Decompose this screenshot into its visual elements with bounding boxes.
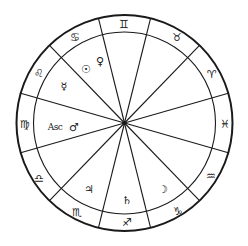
- sign-taurus-icon: ♉︎: [172, 32, 182, 43]
- house-cusp-line: [125, 123, 229, 153]
- sign-libra-icon: ♎︎: [34, 173, 44, 184]
- planet-mercury-icon: ☿︎: [61, 81, 68, 92]
- horoscope-wheel: [0, 0, 248, 246]
- sign-pisces-icon: ♓︎: [220, 119, 230, 130]
- sign-sagittarius-icon: ♐︎: [122, 217, 132, 228]
- house-cusp-line: [21, 93, 125, 123]
- planet-moon-icon: ☽︎: [158, 184, 168, 195]
- house-cusp-line: [125, 93, 229, 123]
- planet-jupiter-icon: ♃︎: [84, 184, 94, 195]
- sign-capricorn-icon: ♑︎: [173, 206, 183, 217]
- sign-aries-icon: ♈︎: [207, 69, 217, 80]
- house-cusp-line: [98, 18, 124, 123]
- sign-aquarius-icon: ♒︎: [206, 171, 216, 182]
- center-dot: [123, 121, 127, 125]
- house-cusp-line: [125, 18, 151, 123]
- house-cusp-line: [125, 45, 200, 123]
- sign-virgo-icon: ♍︎: [20, 119, 30, 130]
- sign-leo-icon: ♌︎: [34, 68, 44, 79]
- sign-scorpio-icon: ♏︎: [72, 207, 82, 218]
- house-cusp-line: [98, 123, 124, 228]
- planet-venus-icon: ♀︎: [96, 56, 104, 67]
- house-cusp-line: [125, 123, 151, 228]
- sign-gemini-icon: ♊︎: [119, 19, 129, 30]
- planet-sun-icon: ☉︎: [81, 64, 91, 75]
- planet-saturn-icon: ♄︎: [122, 195, 132, 206]
- planet-mars-icon: ♂︎: [69, 122, 79, 133]
- ascendant-label: Asc: [48, 123, 63, 132]
- sign-cancer-icon: ♋︎: [70, 32, 80, 43]
